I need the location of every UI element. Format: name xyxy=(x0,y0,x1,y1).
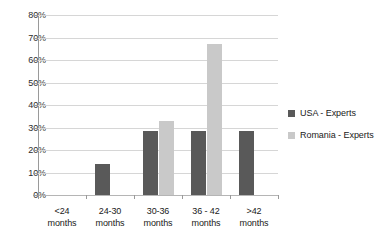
category-label-line: months xyxy=(86,217,134,229)
bar xyxy=(191,131,206,195)
category-label-line: months xyxy=(38,217,86,229)
x-axis-tick-mark xyxy=(182,195,183,199)
x-axis-tick-mark xyxy=(230,195,231,199)
x-axis-category-label: 36 - 42months xyxy=(182,205,230,229)
legend-item-label: Romania - Experts xyxy=(300,130,374,140)
x-axis-category-label: <24months xyxy=(38,205,86,229)
x-axis-category-label: 30-36months xyxy=(134,205,182,229)
legend-color-swatch xyxy=(288,110,295,117)
legend-item[interactable]: Romania - Experts xyxy=(288,130,374,140)
bar xyxy=(159,121,174,195)
category-label-line: 30-36 xyxy=(134,205,182,217)
category-label-line: <24 xyxy=(38,205,86,217)
bar xyxy=(95,164,110,196)
bar xyxy=(143,131,158,195)
bar xyxy=(239,131,254,195)
bar-chart: 0%10%20%30%40%50%60%70%80% <24months24-3… xyxy=(0,0,387,245)
plot-area xyxy=(38,15,278,195)
axis-baseline xyxy=(38,195,278,196)
legend-item[interactable]: USA - Experts xyxy=(288,108,374,118)
x-axis-category-label: 24-30months xyxy=(86,205,134,229)
category-label-line: months xyxy=(230,217,278,229)
category-label-line: 24-30 xyxy=(86,205,134,217)
x-axis-tick-mark xyxy=(134,195,135,199)
x-axis-category-label: >42months xyxy=(230,205,278,229)
category-label-line: 36 - 42 xyxy=(182,205,230,217)
x-axis-tick-mark xyxy=(278,195,279,199)
bar xyxy=(207,44,222,195)
x-axis-tick-mark xyxy=(86,195,87,199)
category-label-line: months xyxy=(134,217,182,229)
category-label-line: >42 xyxy=(230,205,278,217)
legend-color-swatch xyxy=(288,132,295,139)
legend-item-label: USA - Experts xyxy=(300,108,356,118)
x-axis-tick-mark xyxy=(38,195,39,199)
chart-legend: USA - ExpertsRomania - Experts xyxy=(288,108,374,152)
category-label-line: months xyxy=(182,217,230,229)
